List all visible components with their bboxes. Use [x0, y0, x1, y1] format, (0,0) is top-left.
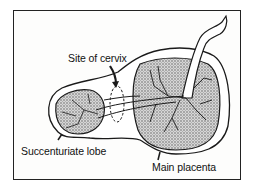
- succenturiate-lobe-label: Succenturiate lobe: [21, 145, 106, 157]
- succenturiate-lobe: [56, 90, 105, 134]
- placenta-pointer: [158, 152, 160, 160]
- main-placenta: [133, 58, 220, 150]
- main-placenta-label: Main placenta: [152, 161, 216, 173]
- lobe-pointer: [58, 134, 62, 140]
- placenta-diagram: [0, 0, 256, 190]
- cervix-label: Site of cervix: [68, 52, 127, 64]
